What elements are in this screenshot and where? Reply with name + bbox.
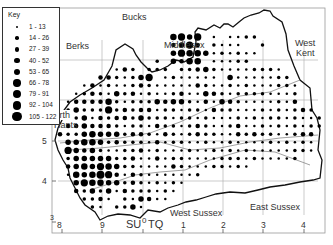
record-dot [73, 156, 79, 162]
record-dot [139, 124, 143, 128]
record-dot [164, 165, 167, 168]
record-dot [148, 141, 151, 144]
record-dot [148, 165, 151, 168]
record-dot [317, 124, 321, 128]
record-dot [245, 125, 248, 128]
record-dot [106, 188, 112, 194]
record-dot [156, 198, 159, 201]
record-dot [236, 100, 240, 104]
record-dot [139, 181, 143, 185]
record-dot [229, 68, 232, 71]
record-dot [196, 108, 200, 112]
record-dot [205, 76, 208, 79]
record-dot [293, 92, 297, 96]
record-dot [82, 156, 88, 162]
record-dot [164, 124, 168, 128]
record-dot [123, 181, 127, 185]
record-dot [293, 108, 297, 112]
record-dot [194, 58, 201, 65]
record-dot [229, 52, 232, 55]
record-dot [105, 163, 112, 170]
record-dot [82, 123, 88, 129]
record-dot [245, 68, 248, 71]
record-dot [180, 133, 183, 136]
record-dot [261, 124, 265, 128]
record-dot [301, 149, 305, 153]
record-dot [97, 180, 104, 187]
record-dot [293, 149, 297, 153]
record-dot [221, 141, 224, 144]
record-dot [220, 108, 224, 112]
record-dot [83, 92, 87, 96]
record-dot [195, 124, 200, 129]
record-dot [245, 35, 249, 39]
record-dot [164, 108, 168, 112]
record-dot [124, 84, 127, 87]
record-dot [156, 133, 159, 136]
record-dot [286, 149, 289, 152]
key-dot-icon [14, 58, 20, 64]
record-dot [203, 50, 209, 56]
record-dot [98, 116, 103, 121]
record-dot [91, 117, 94, 120]
record-dot [245, 60, 249, 64]
record-dot [237, 149, 240, 152]
record-dot [205, 157, 208, 160]
record-dot [245, 109, 248, 112]
record-dot [293, 100, 298, 105]
record-dot [221, 133, 224, 136]
record-dot [171, 99, 177, 105]
record-dot [114, 164, 120, 170]
record-dot [302, 117, 305, 120]
record-dot [212, 149, 216, 153]
record-dot [186, 50, 193, 57]
record-dot [90, 83, 95, 88]
record-dot [237, 141, 240, 144]
record-dot [124, 173, 127, 176]
record-dot [213, 60, 216, 63]
record-dot [310, 141, 313, 144]
record-dot [82, 131, 88, 137]
record-dot [253, 116, 257, 120]
record-dot [212, 91, 217, 96]
record-dot [155, 68, 159, 72]
record-dot [180, 173, 183, 176]
record-dot [221, 84, 224, 87]
record-dot [221, 68, 224, 71]
record-dot [188, 173, 191, 176]
record-dot [245, 165, 248, 168]
record-dot [309, 108, 313, 112]
record-dot [301, 141, 305, 145]
record-dot [73, 164, 79, 170]
record-dot [220, 157, 224, 161]
label-east-sussex: East Sussex [250, 202, 300, 212]
record-dot [106, 124, 111, 129]
record-dot [115, 76, 119, 80]
record-dot [74, 189, 79, 194]
record-dot [131, 100, 135, 104]
record-dot [277, 157, 280, 160]
record-dot [213, 157, 216, 160]
record-dot [196, 165, 199, 168]
record-dot [212, 165, 216, 169]
record-dot [229, 92, 232, 95]
record-dot [204, 141, 208, 145]
record-dot [147, 92, 151, 96]
label-west-kent-line1: West [295, 38, 315, 48]
key-dot-icon [13, 101, 22, 110]
record-dot [123, 141, 127, 145]
record-dot [277, 100, 281, 104]
record-dot [140, 157, 143, 160]
key-row: 27 - 39 [3, 44, 61, 55]
record-dot [154, 99, 160, 105]
record-dot [212, 68, 216, 72]
record-dot [301, 108, 306, 113]
record-dot [293, 116, 297, 120]
record-dot [90, 156, 96, 162]
record-dot [114, 91, 120, 97]
record-dot [204, 132, 208, 136]
record-dot [89, 131, 96, 138]
record-dot [147, 116, 151, 120]
record-dot [188, 165, 191, 168]
record-dot [172, 149, 175, 152]
